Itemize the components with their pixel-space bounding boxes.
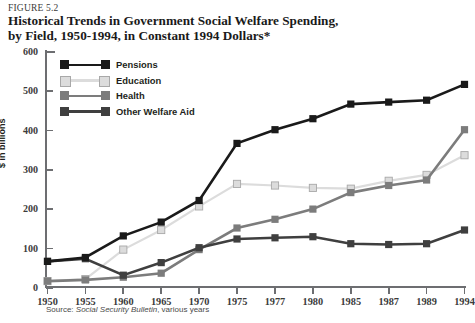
legend-marker [60,76,71,87]
legend-swatch [60,75,110,86]
series-marker [309,206,316,213]
series-marker [385,241,392,248]
series-marker [233,224,240,231]
legend-marker [60,60,69,69]
legend-label: Other Welfare Aid [116,106,195,117]
series-marker [271,182,278,189]
x-axis-tick [350,287,352,294]
x-axis-tick [426,287,428,294]
legend-label: Education [116,75,161,86]
series-marker [82,254,89,261]
legend-marker [60,107,69,116]
legend-item-pensions[interactable]: Pensions [60,57,195,73]
series-marker [233,140,240,147]
x-axis-tick-label: 1980 [303,296,324,307]
series-marker [120,246,127,253]
series-marker [82,276,89,283]
series-marker [158,226,165,233]
series-marker [120,272,127,279]
series-marker [461,152,468,159]
series-marker [158,270,165,277]
legend-line [65,64,105,67]
series-education [44,152,468,285]
series-marker [461,226,468,233]
legend-swatch [60,90,110,101]
x-axis-tick [464,287,466,294]
series-marker [423,97,430,104]
legend-marker [60,91,69,100]
x-axis-tick [47,287,49,294]
series-marker [423,176,430,183]
series-marker [461,81,468,88]
x-axis-tick-label: 1985 [340,296,361,307]
series-marker [233,235,240,242]
series-line [48,130,465,281]
legend-marker [101,107,110,116]
series-marker [347,189,354,196]
series-marker [385,99,392,106]
series-marker [44,258,51,265]
legend-swatch [60,106,110,117]
series-marker [309,184,316,191]
series-marker [120,232,127,239]
x-axis-tick [388,287,390,294]
x-axis-tick-label: 1987 [378,296,399,307]
x-axis-tick-label: 1960 [113,296,134,307]
legend-marker [101,60,110,69]
x-axis-tick-label: 1975 [227,296,248,307]
series-marker [271,126,278,133]
series-marker [347,240,354,247]
x-axis-tick-label: 1970 [189,296,210,307]
legend-label: Pensions [116,59,158,70]
x-axis-tick [160,287,162,294]
x-axis-tick-label: 1989 [416,296,437,307]
series-other-welfare-aid [44,226,468,278]
series-marker [44,278,51,285]
x-axis-tick [274,287,276,294]
legend-line [65,110,105,113]
legend-marker [101,91,110,100]
chart-legend: PensionsEducationHealthOther Welfare Aid [60,57,195,119]
series-marker [309,115,316,122]
legend-item-other-welfare-aid[interactable]: Other Welfare Aid [60,104,195,120]
series-marker [158,259,165,266]
x-axis-tick [198,287,200,294]
series-line [48,155,465,281]
series-line [48,230,465,275]
series-marker [271,234,278,241]
x-axis-tick-label: 1965 [151,296,172,307]
legend-item-education[interactable]: Education [60,73,195,89]
x-axis-tick [85,287,87,294]
legend-item-health[interactable]: Health [60,88,195,104]
legend-swatch [60,59,110,70]
series-marker [461,126,468,133]
x-axis-tick-label: 1950 [37,296,58,307]
series-marker [347,101,354,108]
x-axis-tick-label: 1955 [75,296,96,307]
series-marker [385,182,392,189]
legend-marker [99,76,110,87]
x-axis-tick [122,287,124,294]
x-axis-tick [236,287,238,294]
x-axis-tick-label: 1994 [454,296,475,307]
series-marker [158,219,165,226]
series-marker [196,197,203,204]
x-axis-tick [312,287,314,294]
x-axis-tick-label: 1977 [265,296,286,307]
legend-label: Health [116,90,145,101]
series-marker [309,233,316,240]
series-marker [196,244,203,251]
series-marker [423,240,430,247]
legend-line [65,95,105,98]
series-marker [233,180,240,187]
series-marker [271,216,278,223]
